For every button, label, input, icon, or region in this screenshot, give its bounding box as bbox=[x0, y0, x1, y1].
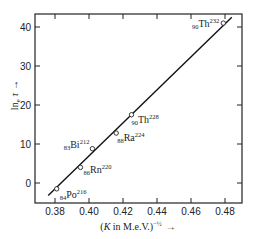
data-point bbox=[129, 113, 133, 117]
data-point bbox=[114, 131, 118, 135]
point-label: 84Po216 bbox=[60, 188, 88, 201]
x-tick-label: 0.48 bbox=[215, 206, 235, 217]
point-label: 90Th228 bbox=[132, 113, 159, 126]
data-point bbox=[78, 165, 82, 169]
point-label: 90Th232 bbox=[192, 17, 219, 30]
fit-line bbox=[48, 17, 232, 195]
point-label: 83Bi212 bbox=[64, 138, 90, 151]
x-tick-label: 0.46 bbox=[181, 206, 201, 217]
data-point bbox=[90, 146, 94, 150]
y-tick-label: 20 bbox=[20, 100, 32, 111]
point-label: 88Ra224 bbox=[117, 131, 145, 144]
y-tick-label: 0 bbox=[25, 178, 31, 189]
data-point bbox=[221, 21, 225, 25]
y-tick-label: 10 bbox=[20, 139, 32, 150]
x-axis-label: (K in M.e.V.)−½→ bbox=[100, 220, 175, 233]
chart: 0.380.400.420.440.460.4801020304084Po216… bbox=[0, 0, 253, 239]
x-tick-label: 0.38 bbox=[45, 206, 65, 217]
y-tick-label: 40 bbox=[20, 22, 32, 33]
y-axis-label: lneτ→ bbox=[9, 80, 21, 110]
point-label: 86Rn220 bbox=[84, 163, 112, 176]
x-tick-label: 0.44 bbox=[147, 206, 167, 217]
x-tick-label: 0.40 bbox=[79, 206, 99, 217]
data-point bbox=[55, 187, 59, 191]
y-tick-label: 30 bbox=[20, 61, 32, 72]
x-tick-label: 0.42 bbox=[113, 206, 133, 217]
